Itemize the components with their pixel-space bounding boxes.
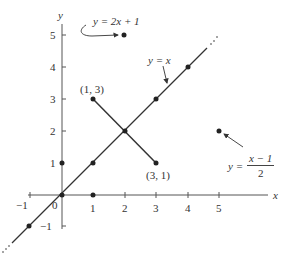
y-tick-label: 4 xyxy=(50,62,56,73)
x-tick-label: −1 xyxy=(16,200,28,211)
x-tick-label: 2 xyxy=(122,203,128,214)
fraction-denominator: 2 xyxy=(258,166,264,179)
inverse-lhs: y = xyxy=(228,160,243,172)
point-2-2 xyxy=(123,129,128,134)
label-point-3-1: (3, 1) xyxy=(146,170,170,181)
line-y-equals-x xyxy=(2,36,218,253)
point-4-4 xyxy=(186,65,191,70)
point-1-1 xyxy=(91,161,96,166)
y-tick-label: 2 xyxy=(50,126,56,137)
y-tick-label: 5 xyxy=(50,30,56,41)
point-3-1 xyxy=(154,161,159,166)
x-tick-label: 4 xyxy=(185,203,191,214)
point-neg1-neg1 xyxy=(27,224,32,229)
point-origin xyxy=(60,193,65,198)
point-1-3 xyxy=(91,97,96,102)
y-axis-label: y xyxy=(58,10,63,21)
point-2-5 xyxy=(122,33,127,38)
arrow-y-equals-x-icon xyxy=(163,66,167,83)
point-3-3 xyxy=(154,97,159,102)
fraction-numerator: x − 1 xyxy=(247,152,274,166)
arrow-inverse-icon xyxy=(224,134,243,147)
label-y-equals-x: y = x xyxy=(148,55,171,66)
point-1-0 xyxy=(91,193,96,198)
label-inverse-function: y = x − 1 2 xyxy=(228,152,274,179)
point-5-2 xyxy=(217,129,222,134)
y-axis xyxy=(62,24,66,229)
label-point-1-3: (1, 3) xyxy=(80,84,104,95)
x-tick-label: 1 xyxy=(90,203,96,214)
y-tick-label: −1 xyxy=(40,221,52,232)
label-y-equals-2x-plus-1: y = 2x + 1 xyxy=(93,16,140,27)
x-tick-label: 5 xyxy=(216,203,222,214)
y-tick-label: 1 xyxy=(50,158,56,169)
origin-label: 0 xyxy=(52,200,58,211)
x-axis-label: x xyxy=(273,190,278,201)
point-0-1 xyxy=(60,161,65,166)
fraction: x − 1 2 xyxy=(247,152,274,179)
y-tick-label: 3 xyxy=(50,94,56,105)
x-tick-label: 3 xyxy=(153,203,159,214)
